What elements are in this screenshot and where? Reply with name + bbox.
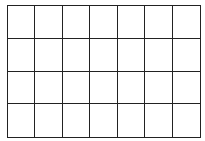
empty-grid	[7, 5, 201, 138]
grid-cell	[90, 6, 117, 39]
grid-cell	[118, 39, 145, 72]
grid-cell	[173, 6, 200, 39]
grid-cell	[35, 6, 62, 39]
grid-cell	[8, 72, 35, 105]
grid-cell	[35, 72, 62, 105]
grid-cell	[173, 104, 200, 137]
grid-cell	[8, 6, 35, 39]
grid-cell	[90, 39, 117, 72]
grid-cell	[118, 104, 145, 137]
grid-cell	[35, 104, 62, 137]
grid-cell	[63, 104, 90, 137]
grid-cell	[145, 72, 172, 105]
grid-cell	[118, 6, 145, 39]
grid-cell	[145, 104, 172, 137]
grid-cell	[173, 39, 200, 72]
grid-cell	[118, 72, 145, 105]
grid-cell	[145, 6, 172, 39]
grid-cell	[173, 72, 200, 105]
grid-cell	[90, 72, 117, 105]
grid-cell	[35, 39, 62, 72]
grid-cell	[63, 6, 90, 39]
grid-cell	[145, 39, 172, 72]
grid-cell	[63, 72, 90, 105]
grid-cell	[90, 104, 117, 137]
grid-cell	[63, 39, 90, 72]
grid-cell	[8, 39, 35, 72]
grid-cell	[8, 104, 35, 137]
